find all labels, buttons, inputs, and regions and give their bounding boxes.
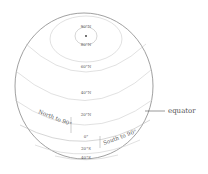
- label-80n: 80°N: [81, 42, 92, 47]
- label-20s: 20°S: [81, 146, 91, 151]
- latitude-70-ring: [50, 16, 122, 62]
- label-20n: 20°N: [81, 112, 92, 117]
- label-40s: 40°S: [81, 155, 91, 160]
- label-40n: 40°N: [81, 90, 92, 95]
- equator-label: equator: [168, 107, 196, 115]
- north-pole-dot: [85, 35, 87, 37]
- label-90n: 90°N: [81, 24, 92, 29]
- north-to-90-label: North to 90°: [38, 108, 73, 127]
- globe-diagram: 90°N 80°N 60°N 40°N 20°N 0° 20°S 40°S No…: [0, 0, 208, 174]
- label-60n: 60°N: [81, 64, 92, 69]
- label-equator-0: 0°: [84, 134, 89, 139]
- latitude-40-arc: [17, 70, 151, 101]
